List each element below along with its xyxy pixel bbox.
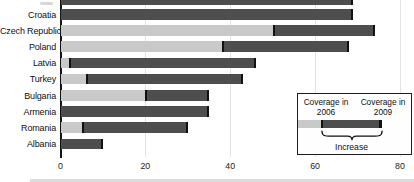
country-label-czech-republic: Czech Republic xyxy=(0,26,56,37)
country-label-albania: Albania xyxy=(0,139,56,150)
bar-2009-segment xyxy=(69,58,256,69)
country-label-croatia: Croatia xyxy=(0,10,56,21)
cropped-label-fragment xyxy=(40,2,53,5)
legend-swatch-2006 xyxy=(298,120,321,128)
legend-entry-2009: Coverage in 2009 xyxy=(356,97,410,117)
country-label-romania: Romania xyxy=(0,123,56,134)
curly-brace-icon xyxy=(321,130,383,141)
bar-2006-segment xyxy=(61,122,81,133)
legend-2006-year: 2006 xyxy=(317,107,335,117)
x-tick-label-60: 60 xyxy=(300,161,330,171)
legend-2009-year: 2009 xyxy=(374,107,392,117)
country-label-armenia: Armenia xyxy=(0,107,56,118)
legend-swatch-2009 xyxy=(321,120,382,128)
legend-2009-line1: Coverage in xyxy=(361,97,406,107)
bar-2009-segment xyxy=(273,25,375,36)
bar-2009-segment xyxy=(86,74,243,85)
country-label-latvia: Latvia xyxy=(0,58,56,69)
legend-entry-2006: Coverage in 2006 xyxy=(299,97,353,117)
x-tick-label-0: 0 xyxy=(46,161,76,171)
country-label-bulgaria: Bulgaria xyxy=(0,91,56,102)
bar-2009-segment xyxy=(61,9,354,20)
bar-2009-segment xyxy=(61,139,103,150)
bar-2006-segment xyxy=(61,58,69,69)
legend-box: Coverage in 2006 Coverage in 2009 Increa… xyxy=(297,93,412,155)
legend-increase-label: Increase xyxy=(320,142,383,152)
bar-2006-segment xyxy=(61,41,221,52)
x-tick-label-80: 80 xyxy=(385,161,414,171)
bar-2006-segment xyxy=(61,90,145,101)
bar-2009-segment xyxy=(222,41,349,52)
x-tick-label-20: 20 xyxy=(130,161,160,171)
bar-2009-segment xyxy=(82,122,188,133)
country-label-poland: Poland xyxy=(0,42,56,53)
cropped-partial-bar xyxy=(61,0,354,5)
legend-2006-line1: Coverage in xyxy=(304,97,349,107)
bar-2009-segment xyxy=(145,90,209,101)
bar-chart: CroatiaCzech RepublicPolandLatviaTurkeyB… xyxy=(0,0,414,182)
x-tick-label-40: 40 xyxy=(215,161,245,171)
cropped-bottom-strip xyxy=(30,179,414,182)
bar-2006-segment xyxy=(61,25,272,36)
country-label-turkey: Turkey xyxy=(0,74,56,85)
bar-2009-segment xyxy=(61,106,210,117)
bar-2006-segment xyxy=(61,74,86,85)
legend-increase-brace: Increase xyxy=(320,130,383,152)
